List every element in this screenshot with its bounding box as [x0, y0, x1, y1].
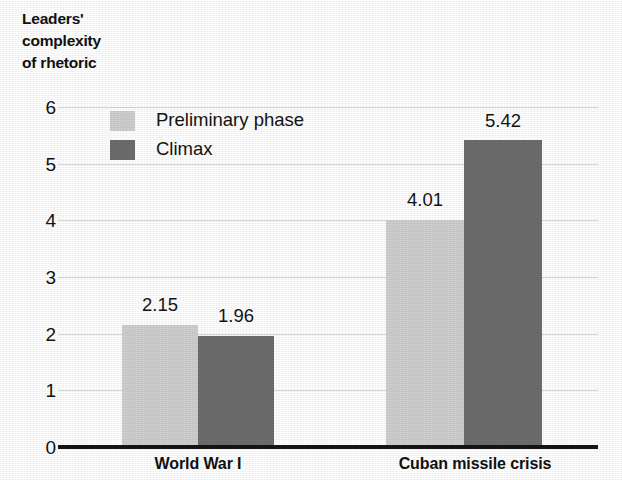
x-axis-baseline	[58, 445, 598, 449]
bar-value-cuban-missile-crisis-climax: 5.42	[462, 112, 544, 131]
bar-value-world-war-i-preliminary-phase: 2.15	[120, 296, 200, 315]
chart-legend: Preliminary phase Climax	[110, 106, 304, 164]
y-tick-label-1: 1	[16, 381, 56, 400]
legend-swatch-preliminary-phase	[110, 111, 135, 131]
y-tick-label-5: 5	[16, 155, 56, 174]
legend-label-climax: Climax	[156, 140, 213, 159]
bar-cuban-missile-crisis-preliminary-phase[interactable]	[386, 220, 464, 447]
bar-value-world-war-i-climax: 1.96	[196, 307, 276, 326]
legend-swatch-climax	[110, 140, 135, 160]
x-category-label-cuban-missile-crisis: Cuban missile crisis	[368, 455, 582, 473]
bar-world-war-i-climax[interactable]	[198, 336, 274, 447]
legend-label-preliminary-phase: Preliminary phase	[156, 111, 304, 130]
x-category-label-world-war-i: World War I	[118, 455, 278, 473]
legend-item-preliminary-phase[interactable]: Preliminary phase	[110, 106, 304, 135]
y-tick-label-6: 6	[16, 98, 56, 117]
y-tick-label-3: 3	[16, 268, 56, 287]
y-tick-label-2: 2	[16, 325, 56, 344]
bar-value-cuban-missile-crisis-preliminary-phase: 4.01	[384, 191, 466, 210]
bar-world-war-i-preliminary-phase[interactable]	[122, 325, 198, 447]
y-tick-label-0: 0	[16, 438, 56, 457]
y-tick-label-4: 4	[16, 211, 56, 230]
legend-item-climax[interactable]: Climax	[110, 135, 304, 164]
plot-area: 6 5 4 3 2 1 0 2.15 1.96 4.01 5.42 World …	[0, 0, 622, 480]
bar-cuban-missile-crisis-climax[interactable]	[464, 140, 542, 447]
